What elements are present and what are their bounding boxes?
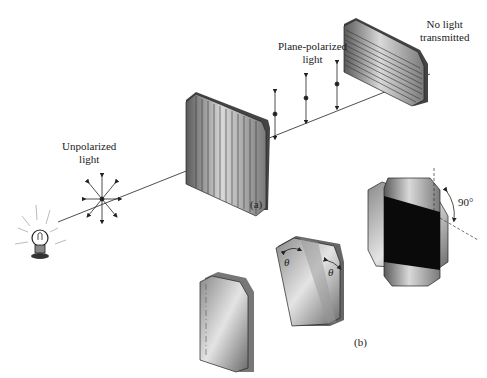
part-b-label: (b) — [354, 336, 367, 349]
angle-90-label: 90° — [458, 196, 473, 209]
plane-polarized-label: Plane-polarized light — [278, 40, 347, 66]
part-a-label: (a) — [250, 198, 262, 211]
light-bulb-icon — [15, 205, 66, 259]
no-light-label: No light transmitted — [420, 18, 470, 44]
unpolarized-label: Unpolarized light — [62, 140, 116, 166]
unpolarized-vectors-icon — [84, 175, 120, 222]
theta-right-label: θ — [328, 266, 333, 279]
part-b-crossed-plates — [368, 168, 478, 286]
polarization-diagram — [0, 0, 487, 378]
part-b-plate-1 — [200, 272, 254, 372]
theta-left-label: θ — [284, 256, 289, 269]
plane-polarized-vectors-icon — [273, 62, 339, 138]
polarizer-horizontal — [344, 18, 428, 106]
part-b-plate-2 — [276, 236, 344, 326]
